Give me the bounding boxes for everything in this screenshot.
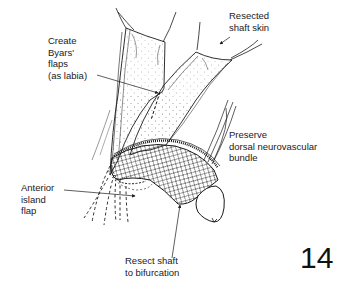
label-resect-shaft: Resect shaft to bifurcation xyxy=(125,255,179,278)
arrow-anterior-flap xyxy=(64,190,135,196)
arrow-resect-shaft xyxy=(172,205,180,258)
label-byars-flaps: Create Byars' flaps (as labia) xyxy=(48,35,87,81)
label-resected-shaft-skin: Resected shaft skin xyxy=(229,10,269,33)
shaft xyxy=(108,139,224,222)
illustration: Resected shaft skin Create Byars' flaps … xyxy=(0,0,348,287)
label-dorsal-neurovascular-bundle: Preserve dorsal neurovascular bundle xyxy=(229,129,317,164)
arrow-resected-skin xyxy=(220,37,230,44)
figure-number: 14 xyxy=(300,243,333,273)
label-anterior-island-flap: Anterior island flap xyxy=(21,182,54,217)
